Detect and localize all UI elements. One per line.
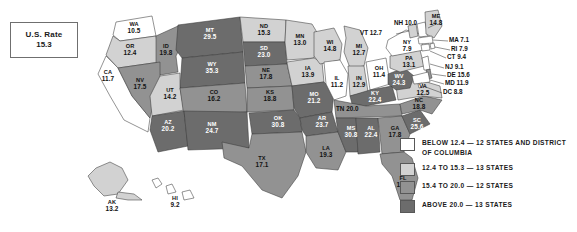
state-NJ[interactable] <box>422 56 430 70</box>
state-WY[interactable] <box>180 52 245 88</box>
legend-label-high: ABOVE 20.0 — 13 STATES <box>422 200 512 210</box>
state-AZ[interactable] <box>150 111 188 152</box>
state-CT[interactable] <box>421 44 430 51</box>
state-OH[interactable] <box>366 58 390 90</box>
state-MI[interactable] <box>344 26 368 68</box>
legend-swatch-below-icon <box>400 138 415 151</box>
legend-label-low: 12.4 TO 15.3 — 13 STATES <box>422 163 513 173</box>
legend-label-mid: 15.4 TO 20.0 — 12 STATES <box>422 181 513 191</box>
leader-MA <box>433 40 448 41</box>
state-VT[interactable] <box>408 24 418 38</box>
state-MN[interactable] <box>285 20 318 60</box>
state-MT[interactable] <box>176 17 243 58</box>
legend-row-low: 12.4 TO 15.3 — 13 STATES <box>400 163 572 176</box>
state-HI-b[interactable] <box>166 184 176 194</box>
state-AK[interactable] <box>88 162 128 196</box>
state-OK[interactable] <box>249 110 302 134</box>
leader-NJ <box>430 64 444 68</box>
legend-swatch-mid-icon <box>400 181 415 194</box>
state-AL[interactable] <box>356 118 380 154</box>
state-HI-c[interactable] <box>182 190 194 200</box>
state-NM[interactable] <box>184 111 249 150</box>
state-DC[interactable] <box>418 83 423 88</box>
legend-row-mid: 15.4 TO 20.0 — 12 STATES <box>400 181 572 194</box>
state-AK-tail[interactable] <box>116 192 142 200</box>
state-HI[interactable] <box>152 178 162 188</box>
legend-row-high: ABOVE 20.0 — 13 STATES <box>400 200 572 213</box>
legend-swatch-high-icon <box>400 200 415 213</box>
state-MD[interactable] <box>412 72 430 84</box>
state-RI[interactable] <box>430 43 435 49</box>
legend-swatch-low-icon <box>400 163 415 176</box>
legend-label-below: BELOW 12.4 — 12 STATES AND DISTRICT OF C… <box>422 138 572 157</box>
legend: BELOW 12.4 — 12 STATES AND DISTRICT OF C… <box>400 138 572 218</box>
state-WI[interactable] <box>314 28 342 64</box>
legend-row-below: BELOW 12.4 — 12 STATES AND DISTRICT OF C… <box>400 138 572 157</box>
map-infographic: U.S. Rate 15.3 <box>0 0 577 232</box>
state-KS[interactable] <box>247 86 294 112</box>
state-ME[interactable] <box>425 10 442 38</box>
leader-DE <box>432 74 446 76</box>
state-NE[interactable] <box>245 64 292 88</box>
state-ND[interactable] <box>240 17 286 42</box>
leader-CT <box>430 51 446 58</box>
state-SD[interactable] <box>243 42 287 66</box>
map-states <box>88 10 442 200</box>
leader-RI <box>435 47 450 50</box>
